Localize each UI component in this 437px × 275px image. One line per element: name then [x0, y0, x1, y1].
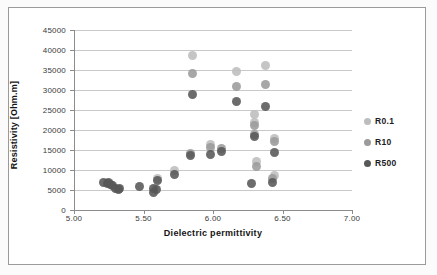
- x-tick-label: 6.00: [193, 214, 233, 223]
- plot-area: 0500010000150002000025000300003500040000…: [74, 30, 352, 210]
- y-tick-mark: [70, 150, 74, 151]
- data-point: [232, 97, 241, 106]
- data-point: [217, 147, 226, 156]
- y-tick-mark: [70, 110, 74, 111]
- chart-figure: Resistivity [Ohm.m] Dielectric permittiv…: [0, 0, 437, 275]
- data-point: [188, 51, 197, 60]
- data-point: [261, 80, 270, 89]
- gridline: [74, 170, 352, 171]
- y-tick-label: 40000: [24, 46, 66, 55]
- x-axis-label: Dielectric permittivity: [74, 228, 352, 238]
- y-tick-label: 30000: [24, 86, 66, 95]
- x-tick-label: 7.00: [332, 214, 372, 223]
- data-point: [186, 151, 195, 160]
- legend-label: R0.1: [375, 116, 394, 126]
- data-point: [170, 170, 179, 179]
- y-axis-label: Resistivity [Ohm.m]: [9, 81, 19, 169]
- x-tick-label: 6.50: [263, 214, 303, 223]
- legend-label: R500: [375, 158, 397, 168]
- data-point: [152, 185, 161, 194]
- x-tick-label: 5.50: [124, 214, 164, 223]
- y-tick-label: 15000: [24, 146, 66, 155]
- legend-item-r0-1[interactable]: R0.1: [364, 116, 426, 126]
- data-point: [270, 137, 279, 146]
- data-point: [261, 61, 270, 70]
- y-tick-label: 25000: [24, 106, 66, 115]
- legend-item-r500[interactable]: R500: [364, 158, 426, 168]
- data-point: [232, 82, 241, 91]
- data-point: [252, 162, 261, 171]
- legend-item-r10[interactable]: R10: [364, 137, 426, 147]
- data-point: [247, 179, 256, 188]
- y-axis-line: [74, 30, 75, 210]
- gridline: [74, 130, 352, 131]
- data-point: [250, 121, 259, 130]
- y-tick-mark: [70, 90, 74, 91]
- y-tick-label: 45000: [24, 26, 66, 35]
- data-point: [268, 178, 277, 187]
- gridline: [74, 30, 352, 31]
- y-tick-mark: [70, 30, 74, 31]
- data-point: [188, 90, 197, 99]
- y-tick-mark: [70, 190, 74, 191]
- data-point: [188, 69, 197, 78]
- y-tick-mark: [70, 170, 74, 171]
- data-point: [270, 148, 279, 157]
- gridline: [74, 90, 352, 91]
- data-point: [232, 67, 241, 76]
- legend-marker-icon: [364, 118, 371, 125]
- gridline: [74, 70, 352, 71]
- data-point: [250, 132, 259, 141]
- y-tick-label: 10000: [24, 166, 66, 175]
- y-tick-mark: [70, 130, 74, 131]
- x-tick-label: 5.00: [54, 214, 94, 223]
- data-point: [115, 184, 124, 193]
- y-tick-mark: [70, 50, 74, 51]
- y-tick-label: 5000: [24, 186, 66, 195]
- gridline: [74, 110, 352, 111]
- gridline: [74, 50, 352, 51]
- y-tick-label: 20000: [24, 126, 66, 135]
- data-point: [206, 150, 215, 159]
- legend-marker-icon: [364, 160, 371, 167]
- legend-marker-icon: [364, 139, 371, 146]
- legend-label: R10: [375, 137, 392, 147]
- y-tick-label: 35000: [24, 66, 66, 75]
- chart-legend: R0.1R10R500: [364, 116, 426, 179]
- y-tick-mark: [70, 70, 74, 71]
